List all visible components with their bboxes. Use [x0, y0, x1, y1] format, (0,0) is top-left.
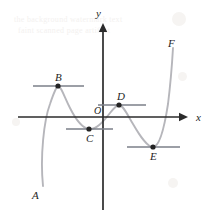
point-marker-c	[86, 126, 91, 131]
curve-diagram-figure: the background watermark text faint scan…	[0, 0, 211, 216]
point-marker-d	[116, 102, 121, 107]
point-label-e: E	[150, 151, 157, 162]
point-marker-e	[150, 144, 155, 149]
origin-label: O	[94, 106, 101, 116]
y-axis-label: y	[96, 8, 101, 19]
point-label-d: D	[117, 91, 125, 102]
curve-diagram-canvas	[0, 0, 211, 216]
point-label-c: C	[86, 133, 93, 144]
y-axis-arrowhead	[99, 23, 107, 32]
point-label-a: A	[32, 190, 39, 201]
point-label-b: B	[55, 72, 62, 83]
x-axis-arrowhead	[179, 113, 188, 121]
x-axis-label: x	[196, 112, 201, 123]
point-label-f: F	[168, 38, 175, 49]
point-marker-b	[55, 83, 60, 88]
